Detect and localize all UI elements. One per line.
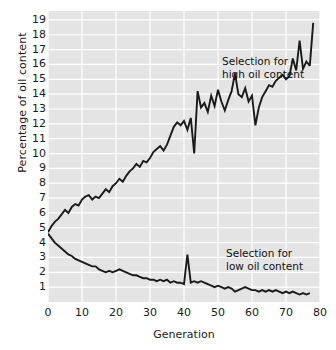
x-tick-label: 50 [203, 307, 233, 318]
x-tick-label: 70 [271, 307, 301, 318]
y-tick-label: 11 [16, 133, 46, 144]
y-tick-label: 19 [16, 14, 46, 25]
y-tick-label: 12 [16, 118, 46, 129]
high-oil-annotation-line2: high oil content [222, 68, 304, 81]
y-tick-label: 7 [16, 192, 46, 203]
low-oil-annotation-line1: Selection for [226, 247, 303, 260]
y-tick-label: 6 [16, 207, 46, 218]
y-tick-label: 14 [16, 88, 46, 99]
y-tick-label: 2 [16, 266, 46, 277]
y-tick-label: 10 [16, 148, 46, 159]
y-tick-label: 8 [16, 177, 46, 188]
y-tick-label: 17 [16, 44, 46, 55]
y-tick-label: 3 [16, 251, 46, 262]
high-oil-annotation: Selection for high oil content [222, 55, 304, 81]
y-tick-label: 18 [16, 29, 46, 40]
y-tick-label: 13 [16, 103, 46, 114]
x-tick-label: 60 [237, 307, 267, 318]
low-oil-annotation: Selection for low oil content [226, 247, 303, 273]
x-axis-title: Generation [48, 328, 320, 341]
y-tick-label: 1 [16, 281, 46, 292]
x-tick-label: 20 [101, 307, 131, 318]
x-tick-label: 40 [169, 307, 199, 318]
y-tick-label: 4 [16, 237, 46, 248]
y-tick-label: 5 [16, 222, 46, 233]
oil-content-chart-figure: Percentage of oil content 12345678910111… [0, 0, 336, 350]
y-tick-label: 16 [16, 58, 46, 69]
x-tick-label: 30 [135, 307, 165, 318]
x-tick-label: 0 [33, 307, 63, 318]
x-tick-label: 80 [305, 307, 335, 318]
y-tick-label: 15 [16, 73, 46, 84]
low-oil-annotation-line2: low oil content [226, 260, 303, 273]
x-tick-label: 10 [67, 307, 97, 318]
plot-area: Selection for high oil content Selection… [48, 11, 320, 302]
y-tick-label: 9 [16, 162, 46, 173]
high-oil-annotation-line1: Selection for [222, 55, 304, 68]
series-line-high-oil-tail [310, 23, 313, 66]
